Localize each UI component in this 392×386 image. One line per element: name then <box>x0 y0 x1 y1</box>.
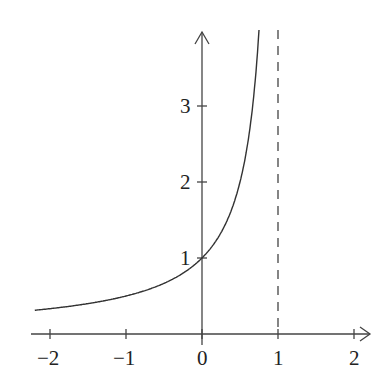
function-curve <box>35 30 259 310</box>
y-tick-label: 1 <box>180 246 191 270</box>
x-ticks: −2−1012 <box>37 329 360 370</box>
function-plot: −2−1012 123 <box>0 0 392 386</box>
x-tick-label: 0 <box>197 346 208 370</box>
x-tick-label: −2 <box>37 346 59 370</box>
y-tick-label: 3 <box>180 94 191 118</box>
x-tick-label: 1 <box>273 346 284 370</box>
y-tick-label: 2 <box>180 170 191 194</box>
y-ticks: 123 <box>180 94 207 270</box>
y-axis <box>195 32 209 345</box>
x-tick-label: −1 <box>113 346 135 370</box>
x-axis <box>31 327 370 341</box>
x-tick-label: 2 <box>349 346 360 370</box>
